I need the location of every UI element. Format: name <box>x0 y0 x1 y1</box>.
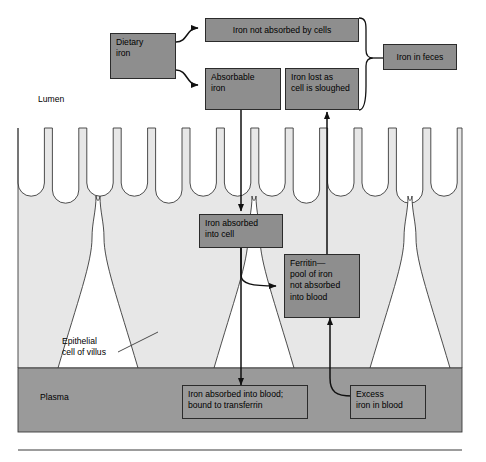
arrow-dietary-to-not-absorbed <box>176 28 198 42</box>
box-iron-lost-sloughed[interactable]: Iron lost as cell is sloughed <box>285 68 359 110</box>
epithelial-cell-annotation: Epithelial cell of villus <box>62 336 106 358</box>
plasma-label: Plasma <box>40 392 69 403</box>
box-iron-absorbed-into-blood[interactable]: Iron absorbed into blood; bound to trans… <box>182 385 308 419</box>
box-ferritin-pool[interactable]: Ferritin— pool of iron not absorbed into… <box>284 254 360 318</box>
arrow-dietary-to-absorbable <box>176 70 198 85</box>
lumen-label: Lumen <box>38 94 64 105</box>
box-excess-iron-in-blood[interactable]: Excess iron in blood <box>350 385 426 419</box>
box-absorbable-iron[interactable]: Absorbable iron <box>205 68 281 110</box>
box-iron-in-feces[interactable]: Iron in feces <box>383 44 457 70</box>
box-iron-not-absorbed[interactable]: Iron not absorbed by cells <box>205 18 359 42</box>
box-iron-absorbed-into-cell[interactable]: Iron absorbed into cell <box>199 214 283 248</box>
diagram-canvas: Lumen Plasma Epithelial cell of villus D… <box>0 0 486 462</box>
feces-brace <box>359 18 383 110</box>
box-dietary-iron[interactable]: Dietary iron <box>110 33 176 79</box>
